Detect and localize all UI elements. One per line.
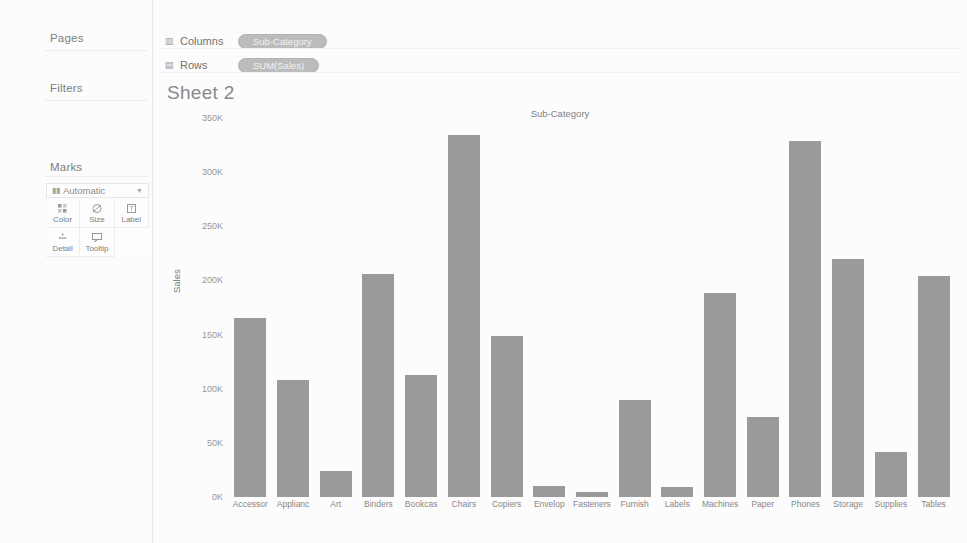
bar-column[interactable] (741, 118, 784, 497)
x-axis-tick-label: Storage (827, 499, 870, 509)
bar-column[interactable] (357, 118, 400, 497)
bar-mark[interactable] (533, 486, 565, 497)
marks-type-icon: ▮▮ (52, 187, 60, 195)
marks-tooltip-label: Tooltip (85, 245, 108, 253)
y-axis-tick: 300K (181, 167, 223, 177)
x-axis-tick-label: Tables (912, 499, 955, 509)
tableau-worksheet-window: Pages Filters Marks ▮▮ Automatic ▼ (0, 0, 967, 543)
x-axis-tick-label: Labels (656, 499, 699, 509)
x-axis-tick-label: Phones (784, 499, 827, 509)
bar-column[interactable] (870, 118, 913, 497)
y-axis-tick: 250K (181, 221, 223, 231)
bar-chart: Sales 350K300K250K200K150K100K50K0K Acce… (167, 118, 957, 528)
bar-mark[interactable] (747, 417, 779, 497)
color-squares-icon (57, 203, 68, 214)
columns-shelf-label: Columns (180, 35, 238, 47)
x-axis-tick-label: Bookcas (400, 499, 443, 509)
pages-shelf-label: Pages (50, 32, 84, 44)
marks-tooltip-button[interactable]: Tooltip (80, 228, 114, 257)
filters-shelf-divider (44, 100, 148, 101)
bar-column[interactable] (656, 118, 699, 497)
detail-dots-icon (57, 232, 68, 243)
rows-shelf-label: Rows (180, 59, 238, 71)
bar-column[interactable] (528, 118, 571, 497)
sheet-title: Sheet 2 (167, 82, 235, 104)
marks-label-label: Label (121, 216, 141, 224)
marks-detail-label: Detail (52, 245, 72, 253)
y-axis-tick: 100K (181, 384, 223, 394)
bar-mark[interactable] (918, 276, 950, 497)
bar-mark[interactable] (234, 318, 266, 497)
bar-mark[interactable] (789, 141, 821, 497)
left-shelf-panel: Pages Filters Marks ▮▮ Automatic ▼ (0, 0, 153, 543)
label-box-icon: T (126, 203, 137, 214)
bar-mark[interactable] (704, 293, 736, 497)
marks-card-label: Marks (50, 161, 82, 173)
chevron-down-icon: ▼ (136, 187, 143, 194)
marks-type-value: Automatic (63, 185, 105, 196)
y-axis-tick: 200K (181, 275, 223, 285)
rows-shelf-icon: ▤ (163, 61, 175, 70)
bar-mark[interactable] (362, 274, 394, 497)
y-axis-tick: 50K (181, 438, 223, 448)
marks-color-button[interactable]: Color (46, 199, 80, 228)
x-axis-tick-label: Chairs (443, 499, 486, 509)
bar-column[interactable] (613, 118, 656, 497)
bar-column[interactable] (912, 118, 955, 497)
x-axis-tick-label: Fasteners (571, 499, 614, 509)
marks-type-dropdown[interactable]: ▮▮ Automatic ▼ (46, 183, 149, 198)
marks-color-label: Color (53, 216, 72, 224)
y-axis-tick: 0K (181, 492, 223, 502)
bar-mark[interactable] (875, 452, 907, 497)
bar-column[interactable] (784, 118, 827, 497)
marks-detail-button[interactable]: Detail (46, 228, 80, 257)
bar-mark[interactable] (448, 135, 480, 497)
marks-card-divider (44, 176, 148, 177)
x-axis-tick-label: Binders (357, 499, 400, 509)
pages-shelf-divider (44, 50, 148, 51)
marks-size-label: Size (89, 216, 105, 224)
marks-buttons-grid: Color Size T Label (46, 199, 149, 257)
bar-column[interactable] (229, 118, 272, 497)
bar-column[interactable] (485, 118, 528, 497)
bar-mark[interactable] (405, 375, 437, 497)
marks-label-button[interactable]: T Label (115, 199, 149, 228)
x-axis-tick-label: Machines (699, 499, 742, 509)
x-axis-tick-label: Applianc (272, 499, 315, 509)
rows-shelf-divider (161, 72, 961, 73)
bar-mark[interactable] (277, 380, 309, 497)
marks-size-button[interactable]: Size (80, 199, 114, 228)
bar-column[interactable] (400, 118, 443, 497)
bar-mark[interactable] (576, 492, 608, 497)
x-axis-tick-label: Accessor (229, 499, 272, 509)
y-axis-tick: 150K (181, 330, 223, 340)
filters-shelf-label: Filters (50, 82, 83, 94)
bar-column[interactable] (314, 118, 357, 497)
x-axis-tick-label: Art (314, 499, 357, 509)
x-axis-tick-label: Copiers (485, 499, 528, 509)
bar-mark[interactable] (619, 400, 651, 497)
bar-mark[interactable] (832, 259, 864, 497)
worksheet-main-area: ▥ Columns Sub-Category ▤ Rows SUM(Sales)… (153, 0, 967, 543)
pill-sum-sales[interactable]: SUM(Sales) (238, 58, 319, 73)
svg-text:T: T (129, 205, 133, 212)
columns-shelf-icon: ▥ (163, 37, 175, 46)
tooltip-bubble-icon (91, 232, 103, 243)
x-axis-tick-label: Envelop (528, 499, 571, 509)
bar-column[interactable] (699, 118, 742, 497)
bar-mark[interactable] (491, 336, 523, 497)
plot-area (229, 118, 955, 497)
marks-grid-filler (115, 228, 149, 257)
x-axis-tick-label: Supplies (870, 499, 913, 509)
bar-mark[interactable] (320, 471, 352, 497)
x-axis-tick-label: Furnish (613, 499, 656, 509)
bar-column[interactable] (827, 118, 870, 497)
x-axis-labels: AccessorAppliancArtBindersBookcasChairsC… (229, 499, 955, 509)
bar-column[interactable] (443, 118, 486, 497)
bar-column[interactable] (272, 118, 315, 497)
pill-sub-category[interactable]: Sub-Category (238, 34, 327, 49)
bar-mark[interactable] (661, 487, 693, 497)
bar-column[interactable] (571, 118, 614, 497)
size-circle-icon (91, 203, 103, 214)
x-axis-tick-label: Paper (741, 499, 784, 509)
